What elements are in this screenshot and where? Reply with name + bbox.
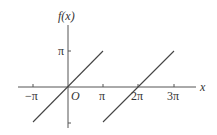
- x-tick-label-2pi: 2π: [131, 89, 143, 103]
- y-axis-label: f(x): [58, 9, 75, 23]
- x-tick-label-pi: π: [99, 89, 105, 103]
- x-tick-label-3pi: 3π: [167, 89, 179, 103]
- origin-label: O: [71, 89, 80, 103]
- y-tick-label-pi: π: [58, 44, 64, 58]
- sawtooth-chart: f(x) x O −π π 2π 3π π: [0, 0, 217, 135]
- x-axis-label: x: [199, 80, 206, 94]
- x-tick-label-neg-pi: −π: [25, 89, 38, 103]
